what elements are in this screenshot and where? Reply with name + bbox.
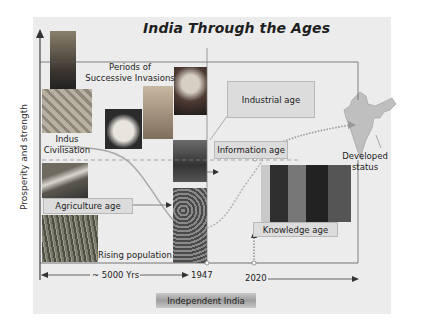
developed-status-label: Developed status (340, 151, 390, 173)
year-1947-label: 1947 (191, 270, 213, 281)
timeline-arrow-1947-icon (182, 272, 189, 278)
knowledge-age-box: Knowledge age (253, 222, 338, 237)
timeline-arrow-future-icon (352, 276, 359, 282)
invasions-label: Periods of Successive Invasions (85, 62, 175, 84)
indus-civilisation-label: Indus Civilisation (42, 134, 92, 156)
timeline-left-arrow-icon (41, 272, 48, 278)
year-2020-label: 2020 (245, 273, 267, 284)
information-age-box: Information age (214, 141, 288, 159)
industrial-age-box: Industrial age (227, 81, 315, 118)
rising-population-label: Rising population (98, 250, 172, 261)
timeline-span-label: ~ 5000 Yrs (92, 270, 139, 281)
independent-india-banner: Independent India (156, 293, 256, 308)
y-axis-arrow-icon (36, 29, 44, 38)
agriculture-age-box: Agriculture age (43, 198, 133, 214)
